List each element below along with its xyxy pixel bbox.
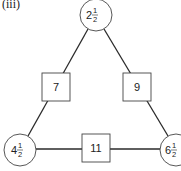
circle-node-right: 6 1 2 xyxy=(160,134,181,166)
square-value: 11 xyxy=(90,142,101,154)
fraction-denominator: 2 xyxy=(172,150,176,159)
square-node-left-side: 7 xyxy=(42,73,70,101)
fraction-denominator: 2 xyxy=(93,15,97,24)
mixed-number-whole: 2 xyxy=(86,9,92,21)
square-value: 9 xyxy=(134,81,140,93)
mixed-number-whole: 4 xyxy=(11,144,17,156)
fraction-numerator: 1 xyxy=(18,141,22,150)
fraction-numerator: 1 xyxy=(172,141,176,150)
square-value: 7 xyxy=(53,81,59,93)
square-node-bottom-side: 11 xyxy=(82,134,110,162)
triangle-diagram: 7 9 11 2 1 2 4 1 2 6 1 2 xyxy=(0,0,181,171)
circle-node-left: 4 1 2 xyxy=(4,134,36,166)
fraction-numerator: 1 xyxy=(93,6,97,15)
circle-node-top: 2 1 2 xyxy=(80,0,112,31)
square-node-right-side: 9 xyxy=(123,73,151,101)
mixed-number-whole: 6 xyxy=(165,144,171,156)
fraction-denominator: 2 xyxy=(18,150,22,159)
